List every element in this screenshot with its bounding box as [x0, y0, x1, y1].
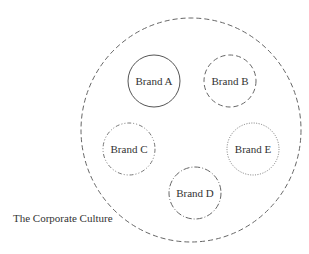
brand-e-label: Brand E	[235, 143, 272, 155]
brand-e-node: Brand E	[227, 123, 279, 175]
brand-c-node: Brand C	[103, 123, 155, 175]
corporate-culture-boundary	[81, 18, 301, 242]
brand-a-node: Brand A	[128, 55, 180, 107]
brand-b-label: Brand B	[212, 75, 249, 87]
brand-a-label: Brand A	[136, 75, 173, 87]
brand-d-node: Brand D	[169, 167, 221, 219]
brand-b-node: Brand B	[204, 55, 256, 107]
corporate-culture-label: The Corporate Culture	[13, 212, 113, 224]
brand-d-label: Brand D	[176, 187, 214, 199]
brand-c-label: Brand C	[111, 143, 148, 155]
